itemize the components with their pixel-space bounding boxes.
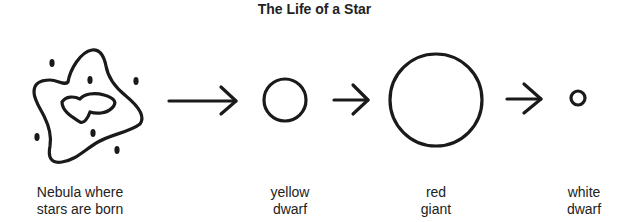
white-dwarf-circle-icon	[571, 91, 585, 105]
arrow-right-icon	[507, 84, 541, 113]
label-line: red	[421, 184, 451, 201]
label-line: white	[567, 184, 601, 201]
red-giant-circle-icon	[390, 54, 482, 146]
label-line: Nebula where	[37, 184, 123, 201]
arrow-right-icon	[334, 85, 368, 114]
label-line: yellow	[271, 184, 310, 201]
arrow-right-icon	[169, 87, 236, 114]
label-line: giant	[421, 201, 451, 218]
nebula-core	[62, 94, 115, 123]
yellow-dwarf-circle-icon	[264, 79, 306, 121]
nebula-icon	[34, 50, 142, 162]
label-line: dwarf	[271, 201, 310, 218]
label-red-giant: red giant	[421, 184, 451, 218]
label-nebula: Nebula where stars are born	[37, 184, 123, 218]
label-yellow-dwarf: yellow dwarf	[271, 184, 310, 218]
nebula-outline	[34, 50, 142, 162]
label-line: stars are born	[37, 201, 123, 218]
label-line: dwarf	[567, 201, 601, 218]
label-white-dwarf: white dwarf	[567, 184, 601, 218]
